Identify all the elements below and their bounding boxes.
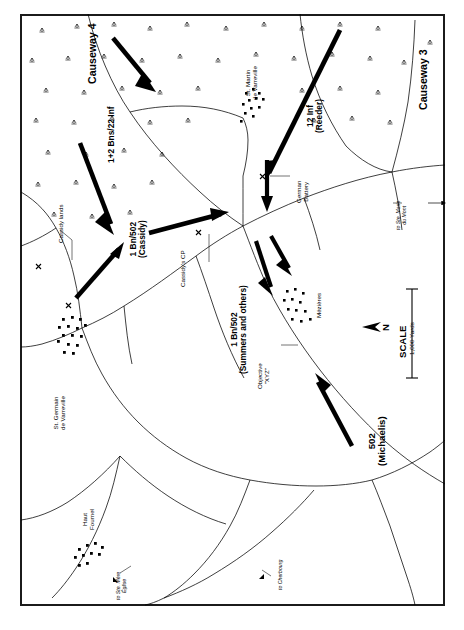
arrow-1-bn-502-cassidy-advance <box>149 208 229 233</box>
arrow-1-2-bns-22-inf-north <box>113 38 156 92</box>
label-cassidy-lands: Cassidy lands <box>58 204 65 243</box>
arrow-12-inf-reeder <box>265 30 340 184</box>
label-causeway-3: Causeway 3 <box>418 49 429 110</box>
arrow-502-michaelis <box>315 373 352 446</box>
label-causeway-4: Causeway 4 <box>87 23 98 84</box>
arrow-1-bn-502-cassidy-approach <box>76 242 124 298</box>
arrow-1-bn-502-summers-a <box>256 241 273 296</box>
compass-north-label: N <box>381 324 391 331</box>
label-st-martin-de-varreville: St. Martin de Varreville <box>245 66 258 100</box>
leader-lines <box>60 176 402 576</box>
label-1-bn-502-cassidy: 1 Bn/502 (Cassidy) <box>129 220 147 258</box>
to-cherbourg-arrow <box>259 574 264 579</box>
label-st-germain-de-varreville: St. Germain de Varreville <box>53 396 66 430</box>
arrow-1-bn-502-summers-b <box>271 236 292 276</box>
label-objective-xyz: Objective "XYZ" <box>257 363 270 389</box>
label-1-bn-502-summers: 1 Bn/502 (Summers and others) <box>230 285 248 374</box>
label-cassidys-cp: Cassidy's CP <box>180 250 187 287</box>
label-to-ste-marie-du-mont: to Ste. Marie du Mont <box>396 201 407 230</box>
compass-rose-north-arrow <box>362 322 381 332</box>
label-mezieres: Mézières <box>316 293 323 318</box>
scale-bar-title: SCALE <box>398 325 408 358</box>
label-to-ste-mere-eglise: to Ste. Mère Église <box>116 572 127 600</box>
label-german-battery: German Battery <box>296 181 309 203</box>
label-502-michaelis: 502 (Michaelis) <box>367 416 388 466</box>
village-st-germain-de-varreville <box>57 316 87 355</box>
label-12-inf-reeder: 12 Inf (Reeder) <box>306 99 324 133</box>
scale-bar-distance: 1,000 Yards <box>409 322 416 355</box>
village-mezieres <box>283 288 312 323</box>
label-1-2-bns-22-inf: 1+2 Bns/22 Inf <box>107 106 116 163</box>
label-haut-fournel: Haut Fournel <box>82 509 95 530</box>
label-to-cherbourg: to Cherbourg <box>278 560 284 590</box>
map-figure: Causeway 4 Causeway 3 1+2 Bns/22 Inf 12 … <box>0 0 464 630</box>
